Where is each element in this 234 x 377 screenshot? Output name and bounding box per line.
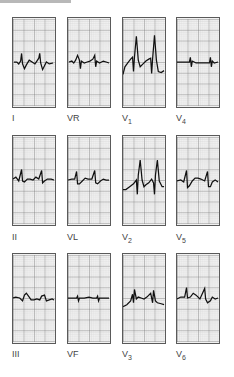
lead-label-V6: V6 bbox=[176, 349, 186, 363]
lead-label-V1: V1 bbox=[122, 113, 132, 127]
ecg-panel-lead-V5 bbox=[176, 135, 220, 226]
lead-label-VR: VR bbox=[67, 113, 80, 127]
ecg-trace-lead-I bbox=[13, 18, 55, 107]
lead-label-V2: V2 bbox=[122, 232, 132, 246]
lead-label-VL: VL bbox=[67, 232, 78, 246]
lead-label-VF: VF bbox=[67, 349, 79, 363]
lead-label-V3: V3 bbox=[122, 349, 132, 363]
ecg-panel-lead-II bbox=[12, 135, 56, 226]
lead-label-V4: V4 bbox=[176, 113, 186, 127]
ecg-panel-lead-I bbox=[12, 17, 56, 108]
ecg-panel-lead-V4 bbox=[176, 17, 220, 108]
ecg-panel-lead-III bbox=[12, 253, 56, 344]
ecg-panel-lead-VL bbox=[67, 135, 111, 226]
lead-label-II: II bbox=[12, 232, 17, 246]
ecg-panel-lead-VR bbox=[67, 17, 111, 108]
ecg-panel-lead-VF bbox=[67, 253, 111, 344]
lead-label-III: III bbox=[12, 349, 20, 363]
ecg-panel-lead-V2 bbox=[122, 135, 166, 226]
ecg-panel-lead-V6 bbox=[176, 253, 220, 344]
lead-label-V5: V5 bbox=[176, 232, 186, 246]
lead-label-I: I bbox=[12, 113, 15, 127]
ecg-panel-lead-V1 bbox=[122, 17, 166, 108]
ecg-panel-lead-V3 bbox=[122, 253, 166, 344]
top-header-bar bbox=[0, 0, 71, 3]
